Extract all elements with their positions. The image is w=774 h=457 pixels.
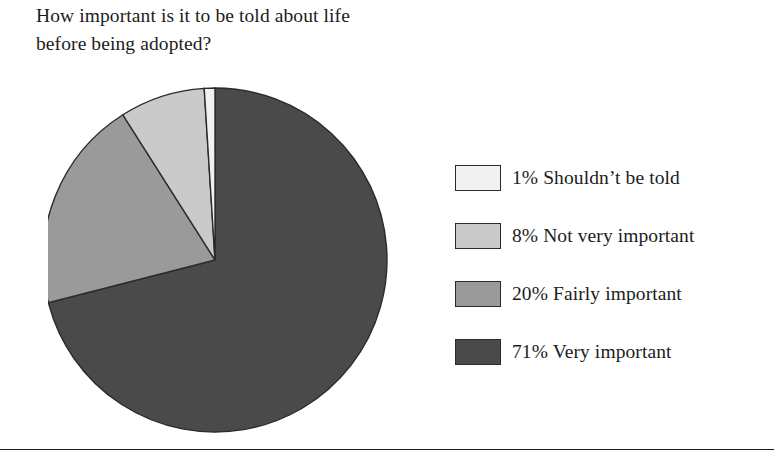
legend-item-shouldnt-be-told: 1% Shouldn’t be told [455, 163, 755, 193]
legend-swatch-shouldnt-be-told [455, 165, 501, 191]
legend-label-fairly-important: 20% Fairly important [512, 281, 682, 307]
legend-item-not-very-important: 8% Not very important [455, 221, 755, 251]
pie-chart-figure: How important is it to be told about lif… [0, 0, 774, 457]
pie-slices [48, 88, 387, 432]
pie-svg [48, 82, 388, 437]
legend-swatch-very-important [455, 339, 501, 365]
chart-legend: 1% Shouldn’t be told 8% Not very importa… [455, 163, 755, 367]
pie-chart-area [48, 82, 388, 437]
legend-label-not-very-important: 8% Not very important [512, 223, 694, 249]
legend-item-fairly-important: 20% Fairly important [455, 279, 755, 309]
chart-title: How important is it to be told about lif… [36, 2, 466, 58]
legend-swatch-fairly-important [455, 281, 501, 307]
legend-label-shouldnt-be-told: 1% Shouldn’t be told [512, 165, 680, 191]
footer-divider [0, 449, 774, 450]
legend-item-very-important: 71% Very important [455, 337, 755, 367]
legend-swatch-not-very-important [455, 223, 501, 249]
legend-label-very-important: 71% Very important [512, 339, 672, 365]
